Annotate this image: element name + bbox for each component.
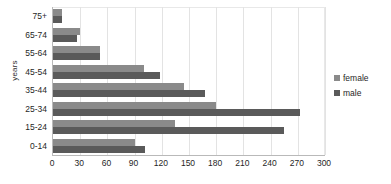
bar-female-55-64[interactable]	[53, 46, 100, 53]
bar-male-45-54[interactable]	[53, 72, 160, 79]
bar-male-0-14[interactable]	[53, 146, 145, 153]
bar-group	[53, 63, 325, 82]
y-axis-tick-label: 25-34	[6, 100, 50, 119]
bar-groups	[53, 7, 325, 155]
bar-group	[53, 118, 325, 137]
bar-male-35-44[interactable]	[53, 90, 205, 97]
bar-female-45-54[interactable]	[53, 65, 144, 72]
bar-group	[53, 81, 325, 100]
x-axis-tick-label: 30	[74, 158, 83, 168]
bar-female-75+[interactable]	[53, 9, 62, 16]
bar-group	[53, 100, 325, 119]
bar-female-65-74[interactable]	[53, 28, 80, 35]
legend-label: male	[343, 88, 361, 98]
bar-female-35-44[interactable]	[53, 83, 184, 90]
bar-male-25-34[interactable]	[53, 109, 300, 116]
y-axis-category-labels: 75+ 65-74 55-64 45-54 35-44 25-34 15-24 …	[6, 7, 50, 155]
x-axis-tick-label: 300	[317, 158, 331, 168]
x-axis-tick-label: 90	[129, 158, 138, 168]
bar-male-15-24[interactable]	[53, 127, 284, 134]
x-axis-tick-label: 60	[102, 158, 111, 168]
legend: female male	[334, 71, 388, 105]
bar-male-55-64[interactable]	[53, 53, 100, 60]
bar-female-0-14[interactable]	[53, 139, 135, 146]
bar-female-25-34[interactable]	[53, 102, 216, 109]
y-axis-tick-label: 75+	[6, 7, 50, 26]
y-axis-tick-label: 65-74	[6, 26, 50, 45]
x-axis-tick-label: 210	[235, 158, 249, 168]
plot-area	[52, 7, 325, 156]
female-color-swatch-icon	[334, 75, 340, 81]
x-axis-tick-label: 0	[50, 158, 55, 168]
y-axis-tick-label: 35-44	[6, 81, 50, 100]
bar-group	[53, 7, 325, 26]
x-axis-tick-label: 120	[154, 158, 168, 168]
bar-male-65-74[interactable]	[53, 35, 77, 42]
y-axis-tick-label: 0-14	[6, 137, 50, 156]
bar-female-15-24[interactable]	[53, 120, 175, 127]
legend-item-female[interactable]: female	[334, 73, 388, 83]
y-axis-tick-label: 15-24	[6, 118, 50, 137]
bar-male-75+[interactable]	[53, 16, 62, 23]
gridline	[325, 7, 326, 155]
x-axis-tick-label: 180	[208, 158, 222, 168]
bar-group	[53, 26, 325, 45]
bar-group	[53, 137, 325, 156]
x-axis-tick-labels: 0306090120150180210240270300	[52, 158, 324, 172]
bar-chart: years 75+ 65-74 55-64 45-54 35-44 25-34 …	[0, 0, 391, 184]
bar-group	[53, 44, 325, 63]
legend-label: female	[343, 73, 369, 83]
x-axis-tick-label: 240	[263, 158, 277, 168]
male-color-swatch-icon	[334, 90, 340, 96]
x-axis-tick-label: 150	[181, 158, 195, 168]
y-axis-tick-label: 55-64	[6, 44, 50, 63]
y-axis-tick-label: 45-54	[6, 63, 50, 82]
x-axis-tick-label: 270	[290, 158, 304, 168]
legend-item-male[interactable]: male	[334, 88, 388, 98]
